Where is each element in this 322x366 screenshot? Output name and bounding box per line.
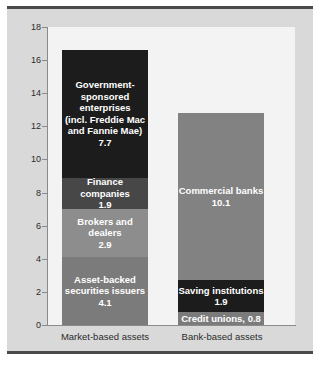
- bar-segment-label: Government- sponsored enterprises (incl.…: [65, 79, 145, 137]
- chart-figure-frame: 181614121086420 Government- sponsored en…: [7, 6, 313, 354]
- bar-segment-label: Brokers and dealers: [77, 216, 132, 239]
- x-axis-label-market-based-assets: Market-based assets: [41, 331, 169, 343]
- bar-segment[interactable]: Government- sponsored enterprises (incl.…: [62, 50, 148, 177]
- y-axis-tick-label: 10: [15, 155, 41, 164]
- y-axis-tick: [42, 126, 48, 127]
- bar-segment-value: 10.1: [212, 197, 231, 209]
- bar-segment-label: Saving institutions: [179, 285, 264, 297]
- bar-segment-value: 1.9: [214, 296, 227, 308]
- y-axis-tick: [42, 259, 48, 260]
- bar-segment[interactable]: Finance companies1.9: [62, 178, 148, 209]
- y-axis-tick-label: 14: [15, 89, 41, 98]
- y-axis-tick-label: 0: [15, 321, 41, 330]
- bar-segment-label: Commercial banks: [179, 185, 263, 197]
- x-axis-label-bank-based-assets: Bank-based assets: [162, 331, 282, 343]
- bar-segment-value: 2.9: [98, 239, 111, 251]
- x-axis-line: [47, 325, 296, 326]
- y-axis-tick: [42, 93, 48, 94]
- bar-segment[interactable]: Asset-backed securities issuers4.1: [62, 257, 148, 325]
- bar-segment[interactable]: Saving institutions1.9: [178, 280, 264, 311]
- bar-market-based-assets[interactable]: Government- sponsored enterprises (incl.…: [62, 50, 148, 325]
- y-axis-tick: [42, 226, 48, 227]
- bar-segment-label: Finance companies: [62, 178, 148, 199]
- y-axis-tick-label: 16: [15, 56, 41, 65]
- bar-segment-label: Asset-backed securities issuers: [65, 274, 145, 297]
- bar-segment-value: 7.7: [98, 137, 111, 149]
- y-axis-tick: [42, 292, 48, 293]
- y-axis-tick: [42, 27, 48, 28]
- bar-segment-label: Credit unions, 0.8: [181, 313, 261, 325]
- y-axis-line: [47, 27, 48, 326]
- y-axis-tick: [42, 193, 48, 194]
- y-axis-tick-label: 2: [15, 288, 41, 297]
- y-axis-tick: [42, 325, 48, 326]
- y-axis-tick-label: 6: [15, 222, 41, 231]
- y-axis-tick-label: 4: [15, 255, 41, 264]
- stacked-bar-chart: 181614121086420 Government- sponsored en…: [7, 9, 313, 357]
- bar-segment[interactable]: Brokers and dealers2.9: [62, 209, 148, 257]
- bar-segment[interactable]: Commercial banks10.1: [178, 113, 264, 280]
- y-axis-tick: [42, 159, 48, 160]
- y-axis-tick-label: 8: [15, 189, 41, 198]
- bar-segment-value: 4.1: [98, 297, 111, 309]
- y-axis-tick-label: 18: [15, 23, 41, 32]
- bar-segment-value: 1.9: [98, 199, 111, 209]
- bar-segment[interactable]: Credit unions, 0.8: [178, 312, 264, 325]
- y-axis-tick-label: 12: [15, 122, 41, 131]
- bar-bank-based-assets[interactable]: Commercial banks10.1Saving institutions1…: [178, 113, 264, 325]
- y-axis-tick: [42, 60, 48, 61]
